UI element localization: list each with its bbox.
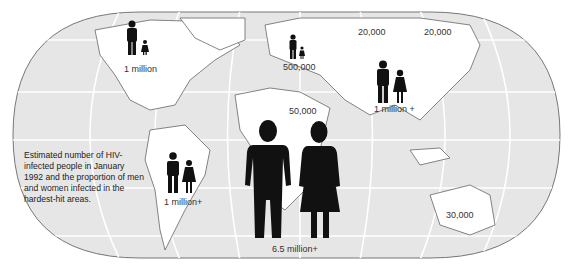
label-east-asia: 20,000 [424,27,452,37]
label-south-asia: 1 million + [374,104,415,114]
europe-figures [287,34,309,60]
africa-figures [245,120,340,240]
north-america-figures [124,20,154,56]
south-asia-figures [374,60,410,104]
label-north-africa: 50,000 [289,106,317,116]
label-north-america: 1 million [124,64,157,74]
map-caption: Estimated number of HIV-infected people … [24,150,144,205]
label-sub-saharan-africa: 6.5 million+ [272,244,318,254]
latin-america-figures [164,152,198,194]
label-australia: 30,000 [446,210,474,220]
label-ussr: 20,000 [358,27,386,37]
label-europe: 500,000 [283,62,316,72]
label-latin-america: 1 million+ [164,197,202,207]
